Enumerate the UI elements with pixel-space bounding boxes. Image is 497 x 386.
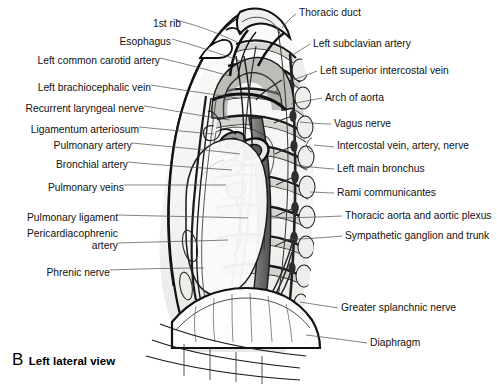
label-recurrent-laryngeal-nerve: Recurrent laryngeal nerve [8, 103, 144, 115]
label-left-brachiocephalic-vein: Left brachiocephalic vein [16, 82, 151, 94]
label-arch-of-aorta: Arch of aorta [325, 92, 384, 104]
label-left-main-bronchus: Left main bronchus [337, 163, 425, 175]
label-left-common-carotid-artery: Left common carotid artery [16, 55, 160, 67]
label-rami-communicantes: Rami communicantes [337, 187, 436, 199]
label-sympathetic-ganglion-and-trunk: Sympathetic ganglion and trunk [345, 230, 489, 242]
label-thoracic-duct: Thoracic duct [299, 7, 361, 19]
label-greater-splanchnic-nerve: Greater splanchnic nerve [341, 302, 456, 314]
label-phrenic-nerve: Phrenic nerve [26, 267, 110, 279]
label-pulmonary-veins: Pulmonary veins [26, 182, 124, 194]
label-thoracic-aorta-and-aortic-plexus: Thoracic aorta and aortic plexus [345, 210, 492, 222]
label-ligamentum-arteriosum: Ligamentum arteriosum [12, 124, 139, 136]
label-bronchial-artery: Bronchial artery [39, 159, 128, 171]
label-esophagus: Esophagus [61, 36, 171, 48]
label-intercostal-vein-artery-nerve: Intercostal vein, artery, nerve [337, 140, 469, 152]
figure-canvas: 1st rib Esophagus Left common carotid ar… [0, 0, 497, 386]
label-vagus-nerve: Vagus nerve [334, 118, 391, 130]
label-pericardiacophrenic-artery: Pericardiacophrenic artery [4, 228, 118, 251]
label-pulmonary-artery: Pulmonary artery [37, 140, 132, 152]
caption-text: Left lateral view [29, 355, 115, 367]
label-left-subclavian-artery: Left subclavian artery [313, 38, 411, 50]
label-first-rib: 1st rib [139, 18, 181, 30]
panel-letter: B [12, 350, 24, 370]
label-diaphragm: Diaphragm [370, 337, 420, 349]
figure-caption: B Left lateral view [12, 350, 115, 370]
label-left-superior-intercostal-vein: Left superior intercostal vein [320, 65, 449, 77]
label-pulmonary-ligament: Pulmonary ligament [6, 212, 118, 224]
